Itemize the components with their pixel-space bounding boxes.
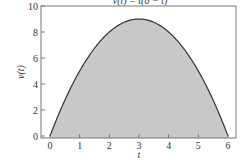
y-tick-label: 2 (33, 105, 38, 116)
y-tick-label: 6 (33, 53, 38, 64)
x-tick-label: 5 (196, 140, 201, 151)
area-fill (50, 19, 228, 138)
y-axis-ticks: 0246810 (28, 1, 45, 142)
y-tick-label: 0 (33, 131, 38, 142)
y-tick-label: 4 (33, 79, 38, 90)
x-tick-label: 0 (48, 140, 53, 151)
y-tick-label: 8 (33, 27, 38, 38)
chart: v(t) = t(6 − t) 0123456 0246810 t v(t) (0, 0, 250, 160)
y-tick-label: 10 (28, 1, 38, 12)
x-tick-label: 1 (77, 140, 82, 151)
x-tick-label: 2 (107, 140, 112, 151)
x-tick-label: 4 (166, 140, 171, 151)
x-axis-label: t (138, 149, 141, 160)
y-axis-label: v(t) (15, 64, 27, 79)
x-tick-label: 6 (226, 140, 231, 151)
